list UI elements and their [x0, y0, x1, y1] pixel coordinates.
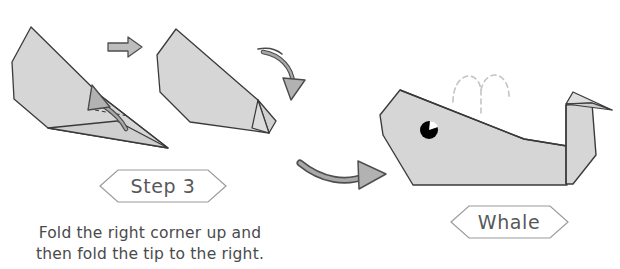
- large-curved-right-arrow: [300, 161, 386, 189]
- step-label-badge: Step 3: [100, 170, 226, 202]
- caption-line-2: then fold the tip to the right.: [36, 245, 264, 263]
- whale-tail: [566, 103, 596, 184]
- result-label-text: Whale: [478, 211, 540, 233]
- result-label-badge: Whale: [451, 206, 568, 238]
- caption-line-1: Fold the right corner up and: [39, 224, 262, 242]
- small-right-arrow: [108, 37, 142, 57]
- diagram-page: Step 3 Fold the right corner up and then…: [0, 0, 620, 269]
- water-spout-icon: [453, 75, 509, 114]
- origami-diagram-canvas: Step 3 Fold the right corner up and then…: [0, 0, 620, 269]
- caption-block: Fold the right corner up and then fold t…: [36, 224, 264, 263]
- origami-step3-before: [12, 27, 168, 148]
- origami-finished-whale: [380, 75, 612, 185]
- whale-body: [380, 90, 567, 185]
- origami-step3-after: [157, 29, 305, 133]
- step-label-text: Step 3: [131, 175, 196, 197]
- fold-arrow-down-right-icon: [258, 48, 305, 100]
- paper-body-after: [157, 29, 269, 133]
- whale-eye-icon: [420, 121, 438, 139]
